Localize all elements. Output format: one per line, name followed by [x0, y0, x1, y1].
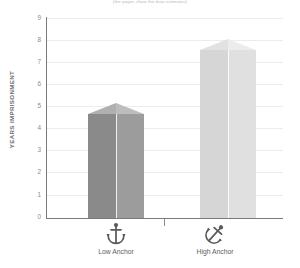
bar-high-anchor-face-right: [228, 50, 256, 218]
bar-low-anchor[interactable]: [88, 103, 144, 218]
y-tick-5: 5: [28, 103, 41, 109]
x-category-high-anchor: High Anchor: [160, 222, 270, 255]
y-tick-0: 0: [28, 214, 41, 220]
x-category-low-anchor: Low Anchor: [61, 222, 171, 255]
figure-caption: (the pages show the data estimates): [0, 0, 300, 5]
bar-high-anchor[interactable]: [200, 39, 256, 218]
bar-high-anchor-top: [200, 39, 256, 50]
y-axis-line: [46, 17, 47, 219]
bar-low-anchor-face-right: [116, 114, 144, 218]
bar-high-anchor-seam: [228, 50, 229, 218]
y-tick-9: 9: [28, 15, 41, 21]
x-label-low-anchor: Low Anchor: [61, 248, 171, 255]
bar-chart: (the pages show the data estimates) YEAR…: [0, 0, 300, 268]
x-label-high-anchor: High Anchor: [160, 248, 270, 255]
anchor-tilted-icon: [160, 222, 270, 246]
y-tick-1: 1: [28, 192, 41, 198]
y-axis-title: YEARS IMPRISONMENT: [8, 55, 15, 165]
y-tick-2: 2: [28, 169, 41, 175]
bar-low-anchor-top: [88, 103, 144, 114]
y-tick-3: 3: [28, 147, 41, 153]
gridline-9: [46, 18, 283, 19]
y-tick-6: 6: [28, 81, 41, 87]
bar-low-anchor-face-left: [88, 114, 116, 218]
y-tick-8: 8: [28, 37, 41, 43]
y-tick-7: 7: [28, 59, 41, 65]
bar-high-anchor-face-left: [200, 50, 228, 218]
anchor-upright-icon: [61, 222, 171, 246]
y-tick-4: 4: [28, 125, 41, 131]
bar-low-anchor-seam: [116, 114, 117, 218]
